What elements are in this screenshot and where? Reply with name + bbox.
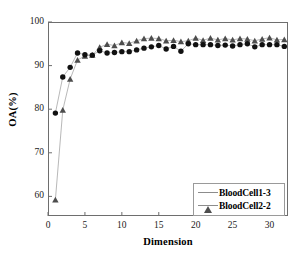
x-tick-label: 5: [73, 221, 97, 231]
chart-legend: BloodCell1-3 BloodCell2-2: [193, 183, 285, 216]
y-tick-label: 90: [18, 61, 44, 71]
x-axis-tick-labels: 051015202530: [0, 221, 307, 235]
legend-label: BloodCell2-2: [219, 201, 271, 211]
x-tick-label: 30: [258, 221, 282, 231]
x-axis-title: Dimension: [48, 236, 288, 247]
series-markers: [52, 35, 287, 203]
x-tick-label: 0: [36, 221, 60, 231]
x-tick-label: 25: [221, 221, 245, 231]
triangle-marker-icon: [197, 187, 219, 199]
x-tick-label: 10: [110, 221, 134, 231]
x-tick-label: 20: [184, 221, 208, 231]
circle-marker-icon: [197, 200, 219, 212]
y-tick-label: 60: [18, 191, 44, 201]
y-tick-label: 80: [18, 104, 44, 114]
chart-figure: 10090807060 051015202530 Dimension OA(%)…: [0, 0, 307, 260]
y-tick-label: 70: [18, 148, 44, 158]
x-tick-label: 15: [147, 221, 171, 231]
legend-label: BloodCell1-3: [219, 188, 271, 198]
y-tick-label: 100: [18, 17, 44, 27]
series-lines: [55, 38, 284, 200]
legend-item-bloodcell2-2: BloodCell2-2: [197, 199, 281, 212]
y-axis-title: OA(%): [7, 70, 18, 150]
legend-item-bloodcell1-3: BloodCell1-3: [197, 186, 281, 199]
